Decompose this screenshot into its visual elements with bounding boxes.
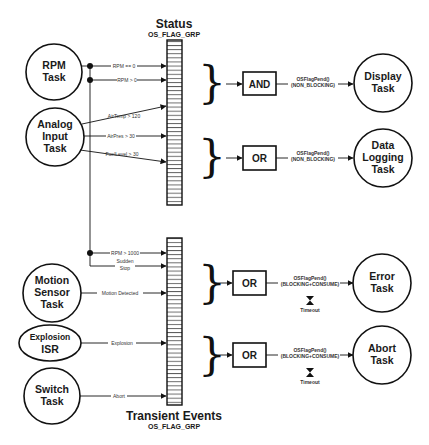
- brace-icon: }: [198, 57, 226, 108]
- transient-group-subtitle: OS_FLAG_GRP: [148, 423, 200, 430]
- svg-text:Task: Task: [371, 82, 394, 94]
- status-group-title: Status: [156, 17, 193, 31]
- error-task-node: Error Task: [353, 254, 411, 312]
- svg-text:Analog: Analog: [37, 118, 73, 130]
- motion-sensor-task-node: Motion Sensor Task: [23, 264, 81, 322]
- hourglass-icon: [306, 296, 314, 305]
- svg-text:Sensor: Sensor: [34, 286, 70, 298]
- svg-text:OR: OR: [242, 350, 258, 361]
- display-task-node: Display Task: [354, 54, 412, 112]
- svg-text:Error: Error: [369, 270, 395, 282]
- timeout-label-1: Timeout: [300, 307, 320, 313]
- svg-text:Task: Task: [370, 354, 393, 366]
- svg-text:OR: OR: [252, 153, 268, 164]
- svg-text:Task: Task: [40, 298, 63, 310]
- rpm-task-node: RPM Task: [26, 44, 82, 100]
- svg-text:Data: Data: [372, 139, 395, 151]
- switch-task-node: Switch Task: [24, 368, 80, 424]
- signal-rpm-gt-0: RPM > 0: [117, 77, 137, 83]
- or-gate-1: OR: [243, 146, 276, 170]
- svg-text:Explosion: Explosion: [30, 332, 71, 342]
- svg-text:Task: Task: [370, 282, 393, 294]
- explosion-isr-node: Explosion ISR: [19, 325, 81, 361]
- signal-explosion: Explosion: [111, 340, 133, 346]
- status-flag-bar: [167, 40, 182, 205]
- and-gate: AND: [243, 72, 276, 95]
- signal-sudden: Sudden: [116, 258, 133, 264]
- status-group-subtitle: OS_FLAG_GRP: [148, 31, 200, 38]
- transient-group-title: Transient Events: [126, 409, 222, 423]
- svg-text:Input: Input: [42, 130, 68, 142]
- signal-motion-detected: Motion Detected: [102, 290, 139, 296]
- pend-mode-3: (BLOCKING+CONSUME): [281, 281, 340, 287]
- signal-stop: Stop: [120, 265, 131, 271]
- svg-text:ISR: ISR: [41, 343, 59, 355]
- abort-task-node: Abort Task: [353, 326, 411, 384]
- svg-text:AND: AND: [249, 79, 271, 90]
- or-gate-2: OR: [233, 271, 266, 295]
- signal-rpm-gt-1000: RPM > 1000: [111, 250, 139, 256]
- svg-text:Task: Task: [42, 71, 65, 83]
- event-flags-diagram: Status OS_FLAG_GRP Transient Events OS_F…: [0, 0, 429, 445]
- timeout-label-2: Timeout: [300, 379, 320, 385]
- svg-text:Motion: Motion: [35, 274, 69, 286]
- pend-mode-4: (BLOCKING+CONSUME): [281, 353, 340, 359]
- svg-text:Switch: Switch: [35, 383, 69, 395]
- signal-rpm-eq-0: RPM == 0: [113, 63, 136, 69]
- analog-input-task-node: Analog Input Task: [26, 108, 84, 166]
- brace-icon: }: [198, 257, 226, 308]
- pend-mode-1: (NON_BLOCKING): [291, 82, 335, 88]
- brace-icon: }: [198, 131, 226, 182]
- hourglass-icon: [306, 368, 314, 377]
- svg-text:Logging: Logging: [362, 151, 403, 163]
- rpm-signal-lines: [82, 63, 166, 266]
- or-gate-3: OR: [233, 343, 266, 367]
- pend-mode-2: (NON_BLOCKING): [291, 156, 335, 162]
- brace-icon: }: [198, 329, 226, 380]
- data-logging-task-node: Data Logging Task: [354, 129, 412, 187]
- signal-abort: Abort: [113, 393, 126, 399]
- svg-text:RPM: RPM: [42, 59, 66, 71]
- svg-text:Task: Task: [43, 142, 66, 154]
- signal-fuellevel: FuelLevel > 30: [106, 151, 139, 157]
- transient-flag-bar: [167, 238, 182, 405]
- svg-text:Task: Task: [40, 395, 63, 407]
- svg-text:Abort: Abort: [368, 342, 396, 354]
- svg-text:Task: Task: [371, 163, 394, 175]
- svg-text:OR: OR: [242, 278, 258, 289]
- signal-airtemp: AirTemp > 120: [108, 113, 141, 119]
- signal-airpres: AirPres > 30: [107, 133, 135, 139]
- svg-text:Display: Display: [364, 70, 402, 82]
